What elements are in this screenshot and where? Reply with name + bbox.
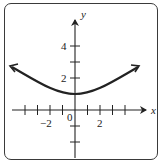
x-axis-label: x xyxy=(150,104,156,116)
y-tick-label-2: 2 xyxy=(61,72,67,84)
origin-label: 0 xyxy=(67,111,73,123)
y-axis-label: y xyxy=(80,8,86,20)
x-tick-label-2: 2 xyxy=(97,117,103,129)
y-tick-label-4: 4 xyxy=(61,40,67,52)
x-tick-label-neg2: −2 xyxy=(40,117,52,129)
graph-plot: y x 4 2 −2 0 2 xyxy=(0,0,162,165)
